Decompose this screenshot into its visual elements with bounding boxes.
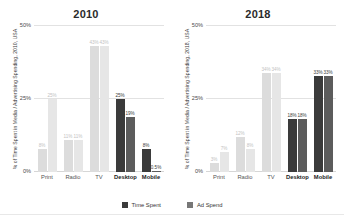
- legend-label: Ad Spend: [197, 202, 222, 208]
- panel-title-2010: 2010: [0, 8, 172, 20]
- y-axis-tick-label: 50%: [20, 22, 31, 28]
- chart-panels: 2010 % of Time Spent in Media / Advertis…: [0, 0, 344, 200]
- bar-ad-spend: 7%: [220, 152, 229, 172]
- bar-time-spent: 8%: [38, 149, 47, 172]
- bar-groups-2018: 3%7%12%8%34%34%18%18%33%33%: [206, 26, 336, 172]
- x-axis-label-mobile: Mobile: [312, 174, 334, 186]
- chart-panel-2010: 2010 % of Time Spent in Media / Advertis…: [0, 0, 172, 200]
- bar-value-label: 0.5%: [151, 165, 161, 170]
- y-axis-title-2018: % of Time Spent in Media / Advertising S…: [184, 29, 190, 170]
- legend-swatch-icon: [122, 202, 128, 208]
- bar-group: 43%43%: [88, 26, 110, 172]
- chart-legend: Time SpentAd Spend: [0, 198, 344, 212]
- bar-value-label: 7%: [221, 146, 228, 151]
- x-axis-label-tv: TV: [88, 174, 110, 186]
- bar-value-label: 43%: [89, 40, 98, 45]
- bar-group: 18%18%: [286, 26, 308, 172]
- bar-ad-spend: 0.5%: [152, 171, 161, 172]
- x-axis-label-print: Print: [36, 174, 58, 186]
- bar-time-spent: 11%: [64, 140, 73, 172]
- y-axis-tick-label: 50%: [192, 22, 203, 28]
- y-axis-title-2010: % of Time Spent in Media / Advertising S…: [12, 29, 18, 170]
- x-axis-label-desktop: Desktop: [114, 174, 136, 186]
- bar-value-label: 34%: [271, 67, 280, 72]
- bar-value-label: 25%: [47, 93, 56, 98]
- bar-time-spent: 33%: [314, 76, 323, 172]
- bar-group: 3%7%: [208, 26, 230, 172]
- bar-value-label: 11%: [64, 134, 73, 139]
- bar-time-spent: 34%: [262, 73, 271, 172]
- bar-ad-spend: 34%: [272, 73, 281, 172]
- bar-time-spent: 12%: [236, 137, 245, 172]
- bar-ad-spend: 19%: [126, 117, 135, 172]
- y-axis-tick-label: 0%: [195, 168, 203, 174]
- bar-group: 34%34%: [260, 26, 282, 172]
- x-axis-labels-2010: PrintRadioTVDesktopMobile: [34, 174, 164, 186]
- plot-area-2018: 0%25%50%3%7%12%8%34%34%18%18%33%33%: [206, 26, 336, 172]
- bar-value-label: 43%: [99, 40, 108, 45]
- legend-item[interactable]: Ad Spend: [187, 202, 222, 208]
- bar-value-label: 3%: [211, 157, 218, 162]
- bar-value-label: 8%: [247, 143, 254, 148]
- x-axis-label-mobile: Mobile: [140, 174, 162, 186]
- legend-label: Time Spent: [132, 202, 161, 208]
- legend-item[interactable]: Time Spent: [122, 202, 161, 208]
- bar-ad-spend: 33%: [324, 76, 333, 172]
- bar-time-spent: 25%: [116, 99, 125, 172]
- x-axis-label-radio: Radio: [62, 174, 84, 186]
- bar-value-label: 33%: [323, 70, 332, 75]
- y-axis-tick-label: 25%: [20, 95, 31, 101]
- bar-value-label: 12%: [235, 131, 244, 136]
- bar-group: 33%33%: [312, 26, 334, 172]
- bar-ad-spend: 18%: [298, 119, 307, 172]
- bar-value-label: 33%: [313, 70, 322, 75]
- panel-title-2018: 2018: [172, 8, 344, 20]
- bar-time-spent: 18%: [288, 119, 297, 172]
- bar-ad-spend: 43%: [100, 46, 109, 172]
- bar-group: 25%19%: [114, 26, 136, 172]
- x-axis-label-print: Print: [208, 174, 230, 186]
- bar-value-label: 11%: [74, 134, 83, 139]
- bar-ad-spend: 11%: [74, 140, 83, 172]
- bar-value-label: 18%: [297, 113, 306, 118]
- bar-groups-2010: 8%25%11%11%43%43%25%19%8%0.5%: [34, 26, 164, 172]
- bar-ad-spend: 8%: [246, 149, 255, 172]
- x-axis-label-tv: TV: [260, 174, 282, 186]
- chart-panel-2018: 2018 % of Time Spent in Media / Advertis…: [172, 0, 344, 200]
- legend-swatch-icon: [187, 202, 193, 208]
- bar-time-spent: 43%: [90, 46, 99, 172]
- bar-value-label: 25%: [115, 93, 124, 98]
- x-axis-label-radio: Radio: [234, 174, 256, 186]
- bar-group: 11%11%: [62, 26, 84, 172]
- bar-time-spent: 3%: [210, 163, 219, 172]
- bar-value-label: 8%: [39, 143, 46, 148]
- y-axis-tick-label: 0%: [23, 168, 31, 174]
- bar-value-label: 19%: [125, 111, 134, 116]
- x-axis-labels-2018: PrintRadioTVDesktopMobile: [206, 174, 336, 186]
- bar-ad-spend: 25%: [48, 99, 57, 172]
- y-axis-tick-label: 25%: [192, 95, 203, 101]
- bar-value-label: 18%: [287, 113, 296, 118]
- bar-time-spent: 8%: [142, 149, 151, 172]
- bar-value-label: 8%: [143, 143, 150, 148]
- x-axis-label-desktop: Desktop: [286, 174, 308, 186]
- bar-value-label: 34%: [261, 67, 270, 72]
- bar-group: 8%25%: [36, 26, 58, 172]
- plot-area-2010: 0%25%50%8%25%11%11%43%43%25%19%8%0.5%: [34, 26, 164, 172]
- bar-group: 12%8%: [234, 26, 256, 172]
- footer-divider: [0, 214, 344, 215]
- bar-group: 8%0.5%: [140, 26, 162, 172]
- chart-figure: 2010 % of Time Spent in Media / Advertis…: [0, 0, 344, 223]
